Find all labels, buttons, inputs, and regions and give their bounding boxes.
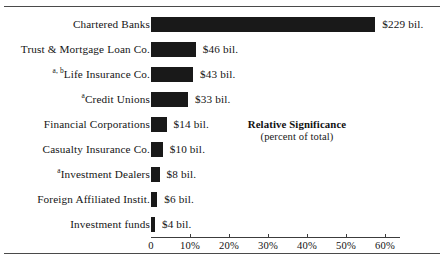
x-axis: 010%20%30%40%50%60% — [0, 237, 444, 257]
category-label: Foreign Affiliated Instit. — [37, 187, 150, 212]
x-axis-tick-label: 50% — [336, 240, 356, 251]
category-footnote-marker: a, b — [52, 66, 63, 75]
category-label: Casualty Insurance Co. — [43, 137, 150, 162]
bar — [151, 117, 167, 132]
x-axis-tick — [307, 234, 308, 238]
bar-value-label: $33 bil. — [195, 87, 230, 112]
bar-value-label: $8 bil. — [167, 162, 197, 187]
category-footnote-marker: a — [57, 166, 60, 175]
bar-chart-figure: Chartered Banks$229 bil.Trust & Mortgage… — [0, 0, 444, 262]
chart-row: Chartered Banks$229 bil. — [0, 12, 444, 37]
category-label: Chartered Banks — [73, 12, 150, 37]
chart-row: aInvestment Dealers$8 bil. — [0, 162, 444, 187]
bar — [151, 17, 375, 32]
x-axis-tick-label: 60% — [375, 240, 395, 251]
chart-row: Foreign Affiliated Instit.$6 bil. — [0, 187, 444, 212]
category-label: aInvestment Dealers — [57, 162, 150, 187]
x-axis-tick-label: 10% — [180, 240, 200, 251]
x-axis-tick-label: 20% — [219, 240, 239, 251]
figure-top-rule — [4, 6, 440, 7]
category-label: aCredit Unions — [82, 87, 150, 112]
chart-legend: Relative Significance (percent of total) — [222, 118, 372, 142]
x-axis-tick — [190, 234, 191, 238]
bar-value-label: $4 bil. — [162, 212, 192, 237]
bar — [151, 192, 157, 207]
category-label: Investment funds — [70, 212, 150, 237]
category-label: Financial Corporations — [44, 112, 150, 137]
x-axis-tick — [346, 234, 347, 238]
category-footnote-marker: a — [82, 91, 85, 100]
category-label: Trust & Mortgage Loan Co. — [21, 37, 150, 62]
bar — [151, 67, 193, 82]
chart-row: Trust & Mortgage Loan Co.$46 bil. — [0, 37, 444, 62]
x-axis-tick-label: 40% — [297, 240, 317, 251]
bar — [151, 217, 155, 232]
legend-subtitle: (percent of total) — [222, 131, 372, 142]
x-axis-tick-label: 0 — [148, 240, 153, 251]
chart-row: a, bLife Insurance Co.$43 bil. — [0, 62, 444, 87]
bar-value-label: $46 bil. — [203, 37, 238, 62]
legend-title: Relative Significance — [222, 118, 372, 130]
bar — [151, 142, 163, 157]
chart-row: aCredit Unions$33 bil. — [0, 87, 444, 112]
bar — [151, 92, 188, 107]
x-axis-tick — [385, 234, 386, 238]
x-axis-tick — [229, 234, 230, 238]
bar-value-label: $43 bil. — [200, 62, 235, 87]
bar — [151, 42, 196, 57]
chart-row: Investment funds$4 bil. — [0, 212, 444, 237]
x-axis-tick-label: 30% — [258, 240, 278, 251]
bar-value-label: $10 bil. — [170, 137, 205, 162]
bar-value-label: $6 bil. — [164, 187, 194, 212]
x-axis-tick — [268, 234, 269, 238]
x-axis-line — [151, 237, 400, 238]
category-label: a, bLife Insurance Co. — [52, 62, 150, 87]
bar-value-label: $229 bil. — [382, 12, 423, 37]
bar-value-label: $14 bil. — [174, 112, 209, 137]
bar — [151, 167, 160, 182]
